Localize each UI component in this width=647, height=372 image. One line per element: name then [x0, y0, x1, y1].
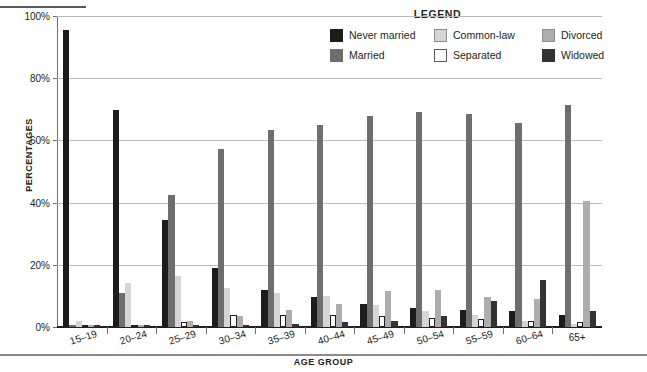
y-tick-mark — [53, 327, 57, 328]
bars — [453, 16, 503, 327]
x-tick-label: 15–19 — [58, 325, 109, 350]
bar-group: 35–39 — [255, 16, 305, 327]
bar-widowed[interactable] — [441, 316, 447, 327]
bar-group: 40–44 — [305, 16, 355, 327]
x-tick-label: 55–59 — [454, 325, 505, 350]
x-tick-label: 65+ — [552, 332, 602, 343]
y-tick-label: 100% — [24, 11, 50, 22]
bar-group: 60–64 — [503, 16, 553, 327]
bars — [255, 16, 305, 327]
bars — [354, 16, 404, 327]
bar-common-law[interactable] — [125, 283, 131, 327]
bars — [57, 16, 107, 327]
y-tick-label: 20% — [30, 259, 50, 270]
bar-group: 30–34 — [206, 16, 256, 327]
bar-married[interactable] — [416, 112, 422, 327]
x-tick-label: 30–34 — [207, 325, 258, 350]
x-tick-label: 25–29 — [157, 325, 208, 350]
x-tick-label: 40–44 — [306, 325, 357, 350]
bars — [503, 16, 553, 327]
bar-divorced[interactable] — [583, 201, 589, 327]
bottom-divider — [0, 354, 647, 356]
bars — [552, 16, 602, 327]
bars — [404, 16, 454, 327]
bar-widowed[interactable] — [491, 301, 497, 327]
bars — [156, 16, 206, 327]
x-tick-label: 45–49 — [355, 325, 406, 350]
bar-married[interactable] — [565, 105, 571, 327]
x-tick-label: 50–54 — [405, 325, 456, 350]
marital-status-bar-chart: LEGEND Never marriedCommon-lawDivorcedMa… — [0, 0, 647, 372]
bar-groups: 15–1920–2425–2930–3435–3940–4445–4950–54… — [57, 16, 602, 327]
bar-group: 45–49 — [354, 16, 404, 327]
bar-group: 20–24 — [107, 16, 157, 327]
bar-group: 15–19 — [57, 16, 107, 327]
bar-group: 25–29 — [156, 16, 206, 327]
bar-group: 65+ — [552, 16, 602, 327]
bar-widowed[interactable] — [590, 311, 596, 327]
bar-widowed[interactable] — [540, 280, 546, 327]
bars — [305, 16, 355, 327]
bar-married[interactable] — [367, 116, 373, 327]
y-tick-label: 40% — [30, 197, 50, 208]
y-tick-label: 0% — [36, 322, 50, 333]
bar-married[interactable] — [466, 114, 472, 327]
bar-never-married[interactable] — [63, 30, 69, 327]
bars — [107, 16, 157, 327]
bar-common-law[interactable] — [175, 276, 181, 327]
bar-group: 50–54 — [404, 16, 454, 327]
x-axis-title: AGE GROUP — [0, 357, 647, 367]
bars — [206, 16, 256, 327]
plot-area: 0%20%40%60%80%100% 15–1920–2425–2930–343… — [57, 16, 602, 327]
top-divider — [0, 6, 86, 8]
x-tick-label: 35–39 — [256, 325, 307, 350]
bar-married[interactable] — [515, 123, 521, 327]
y-tick-label: 60% — [30, 135, 50, 146]
y-tick-label: 80% — [30, 73, 50, 84]
bar-group: 55–59 — [453, 16, 503, 327]
x-tick-label: 20–24 — [108, 325, 159, 350]
x-tick-label: 60–64 — [504, 325, 555, 350]
